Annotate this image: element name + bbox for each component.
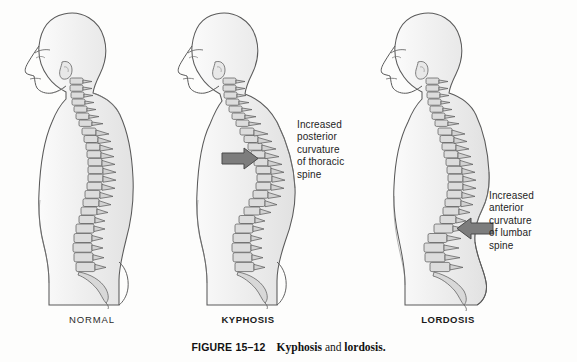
caption-figure-number: FIGURE 15–12 (191, 341, 265, 353)
figure-caption: FIGURE 15–12Kyphosis and lordosis. (0, 337, 577, 355)
figure-label-kyphosis: KYPHOSIS (158, 314, 338, 325)
annotation-lordosis: Increased anterior curvature of lumbar s… (489, 190, 534, 252)
caption-term-lordosis: lordosis. (344, 341, 385, 353)
figure-label-lordosis: LORDOSIS (358, 314, 538, 325)
figure-normal: NORMAL (2, 0, 182, 312)
caption-term-kyphosis: Kyphosis (277, 341, 322, 353)
figure-lordosis: LORDOSIS (358, 0, 538, 312)
figure-label-normal: NORMAL (2, 314, 182, 325)
caption-conjunction: and (322, 341, 344, 353)
figure-page: NORMAL (0, 0, 577, 362)
annotation-kyphosis: Increased posterior curvature of thoraci… (297, 119, 344, 181)
normal-spine-illustration (2, 0, 182, 312)
lordosis-spine-illustration (358, 0, 538, 312)
